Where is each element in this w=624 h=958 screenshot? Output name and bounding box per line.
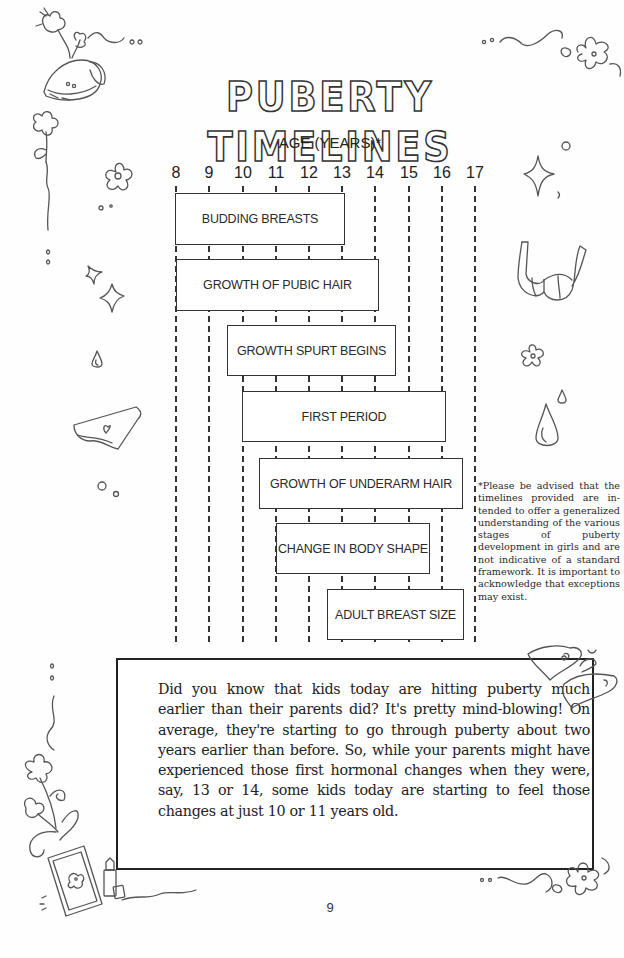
water-drop-icon xyxy=(534,388,570,452)
page-number: 9 xyxy=(300,900,360,915)
footnote: *Please be advised that the timelines pr… xyxy=(478,480,620,603)
bar-label: CHANGE IN BODY SHAPE xyxy=(278,542,428,556)
bar-adult-breast-size: ADULT BREAST SIZE xyxy=(327,589,464,640)
sparkle-icon xyxy=(84,260,134,320)
gridline-9 xyxy=(208,186,210,642)
bar-label: GROWTH SPURT BEGINS xyxy=(237,344,386,358)
tick-label-11: 11 xyxy=(261,164,291,182)
gridline-8 xyxy=(175,186,177,642)
bar-growth-spurt-begins: GROWTH SPURT BEGINS xyxy=(227,325,396,376)
tick-label-10: 10 xyxy=(228,164,258,182)
flower-icon xyxy=(30,110,70,270)
water-drop-icon xyxy=(90,350,104,370)
sparkle-icon xyxy=(522,138,582,202)
bar-label: GROWTH OF PUBIC HAIR xyxy=(203,278,352,292)
bra-icon xyxy=(514,240,590,310)
flower-icon xyxy=(98,158,138,218)
bubble-icon xyxy=(96,480,126,500)
axis-title: AGE (YEARS)* xyxy=(230,134,430,151)
tick-label-12: 12 xyxy=(294,164,324,182)
gridline-17 xyxy=(474,186,476,642)
bird-nest-flower-icon xyxy=(36,4,176,114)
tick-label-8: 8 xyxy=(161,164,191,182)
hearts-icon xyxy=(524,644,624,714)
bar-change-in-body-shape: CHANGE IN BODY SHAPE xyxy=(276,523,430,574)
bar-label: BUDDING BREASTS xyxy=(202,212,318,226)
bar-label: FIRST PERIOD xyxy=(302,410,387,424)
tick-label-9: 9 xyxy=(194,164,224,182)
flower-icon xyxy=(518,342,548,372)
page-title: PUBERTY TIMELINES xyxy=(155,72,505,122)
bar-label: ADULT BREAST SIZE xyxy=(335,608,456,622)
tick-label-16: 16 xyxy=(427,164,457,182)
bar-growth-of-pubic-hair: GROWTH OF PUBIC HAIR xyxy=(176,259,379,311)
bar-growth-of-underarm-hair: GROWTH OF UNDERARM HAIR xyxy=(259,458,463,509)
bar-budding-breasts: BUDDING BREASTS xyxy=(175,193,345,245)
tick-label-17: 17 xyxy=(460,164,490,182)
tick-label-13: 13 xyxy=(327,164,357,182)
page: PUBERTY TIMELINES AGE (YEARS)* 8 9 10 11… xyxy=(0,0,624,958)
bar-label: GROWTH OF UNDERARM HAIR xyxy=(270,477,452,491)
bar-first-period: FIRST PERIOD xyxy=(242,391,446,442)
bubble-icon xyxy=(586,646,600,656)
swirl-vine-icon xyxy=(478,858,624,928)
tick-label-15: 15 xyxy=(394,164,424,182)
underwear-icon xyxy=(72,405,144,455)
swirl-vine-icon xyxy=(478,28,624,88)
lipstick-icon xyxy=(100,856,210,906)
tick-label-14: 14 xyxy=(360,164,390,182)
